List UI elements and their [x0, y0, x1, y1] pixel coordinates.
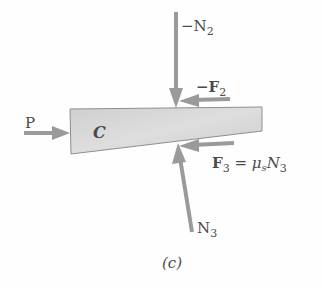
label-neg-n2: −N2: [181, 17, 214, 38]
force-arrow-f3: [179, 139, 234, 152]
force-arrow-n3: [172, 143, 192, 232]
label-body-c: C: [93, 123, 106, 142]
label-neg-f2: −F2: [196, 78, 226, 99]
free-body-diagram: P C −N2 −F2 F3 = μsN3 N3 (c): [0, 0, 322, 288]
label-p: P: [25, 114, 35, 132]
label-f3-equation: F3 = μsN3: [212, 154, 287, 175]
label-n3: N3: [197, 219, 217, 240]
figure-caption: (c): [162, 254, 182, 272]
